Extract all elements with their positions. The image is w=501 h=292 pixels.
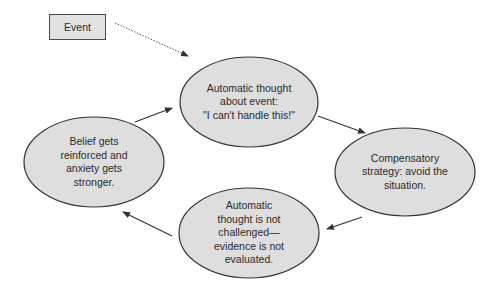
node-compensatory-strategy-label: Compensatory strategy: avoid the situati… xyxy=(335,128,475,216)
node-thought-not-challenged-label: Automatic thought is not challenged— evi… xyxy=(179,188,319,278)
node-belief-reinforced-label: Belief gets reinforced and anxiety gets … xyxy=(24,117,164,207)
arrow-compensatory-to-not-challenged xyxy=(327,217,362,229)
node-automatic-thought-label: Automatic thought about event: "I can't … xyxy=(180,57,318,147)
event-box: Event xyxy=(49,14,106,40)
arrow-not-challenged-to-belief xyxy=(123,212,172,236)
arrow-event-to-automatic-thought xyxy=(115,23,188,56)
event-label: Event xyxy=(64,21,91,33)
